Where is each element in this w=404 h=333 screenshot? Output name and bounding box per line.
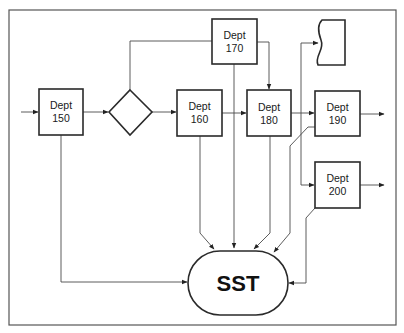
flow-diagram: Dept 150 Dept 160 Dept 170 Dept 180 Dept…: [0, 0, 404, 333]
node-dept-170-line2: 170: [226, 42, 244, 54]
node-dept-180-line1: Dept: [258, 101, 280, 113]
edge-dept190-sst: [274, 127, 315, 252]
node-dept-160: Dept 160: [177, 90, 222, 136]
node-dept-170-line1: Dept: [223, 29, 245, 41]
node-document: [317, 20, 345, 65]
edge-dept170-dept180: [257, 42, 269, 89]
node-dept-150-line2: 150: [52, 112, 70, 124]
node-dept-190-line2: 190: [329, 114, 347, 126]
node-dept-190-line1: Dept: [326, 101, 348, 113]
node-dept-200-line1: Dept: [326, 172, 348, 184]
node-dept-150-line1: Dept: [50, 99, 72, 111]
edge-dept200-sst: [289, 208, 315, 283]
node-dept-200: Dept 200: [315, 162, 360, 208]
node-dept-170: Dept 170: [212, 19, 257, 64]
node-dept-180-line2: 180: [260, 114, 278, 126]
node-dept-150: Dept 150: [39, 89, 83, 135]
edge-dept150-sst: [61, 135, 187, 282]
edge-dept180-dept200: [301, 113, 314, 185]
node-sst-label: SST: [217, 271, 260, 296]
edge-decision-dept170: [130, 41, 212, 90]
edge-dept180-sst: [254, 136, 270, 249]
edge-dept160-sst: [200, 136, 214, 249]
node-dept-160-line2: 160: [191, 113, 209, 125]
node-dept-190: Dept 190: [315, 91, 360, 136]
node-dept-160-line1: Dept: [188, 100, 210, 112]
node-dept-200-line2: 200: [329, 185, 347, 197]
node-sst: SST: [188, 251, 288, 315]
node-decision-diamond: [109, 90, 152, 135]
node-dept-180: Dept 180: [247, 90, 291, 136]
